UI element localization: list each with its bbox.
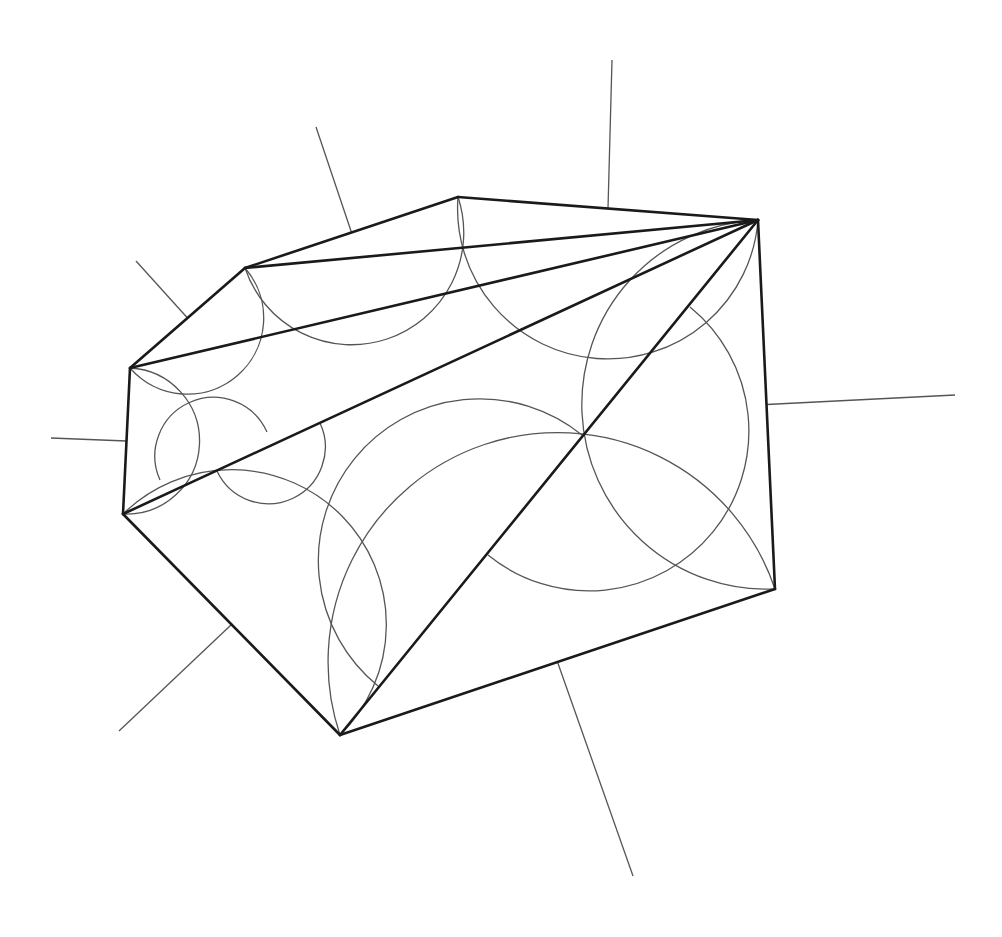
segment-ac <box>245 220 758 268</box>
semicircle-arc-bc <box>245 197 464 345</box>
semicircle-radius-fg <box>558 662 634 876</box>
semicircle-arc-fg <box>328 433 775 735</box>
geometry-diagram <box>0 0 1002 937</box>
segment-fg <box>340 589 775 735</box>
segment-ae <box>123 220 758 514</box>
segment-ef <box>123 514 340 735</box>
semicircle-arc-ef <box>123 470 386 735</box>
semicircle-arcs <box>123 197 775 735</box>
segment-ad <box>130 220 758 368</box>
semicircle-radii <box>51 60 955 876</box>
inner-semicircle-a-e-up <box>155 397 267 480</box>
semicircle-radius-ga <box>767 395 956 405</box>
semicircle-radius-ab <box>608 60 612 209</box>
inner-semicircle-a-f-left <box>318 399 582 686</box>
semicircle-radius-cd <box>136 261 188 318</box>
inner-semicircle-a-f-right <box>488 307 749 591</box>
semicircle-radius-bc <box>316 127 352 233</box>
semicircle-radius-ef <box>119 625 232 732</box>
semicircle-arc-cd <box>130 268 264 394</box>
semicircle-arc-ga <box>582 220 775 589</box>
semicircle-arc-ab <box>458 197 758 359</box>
semicircle-radius-de <box>51 438 127 441</box>
segment-cd <box>130 268 245 368</box>
segment-af <box>340 220 758 735</box>
